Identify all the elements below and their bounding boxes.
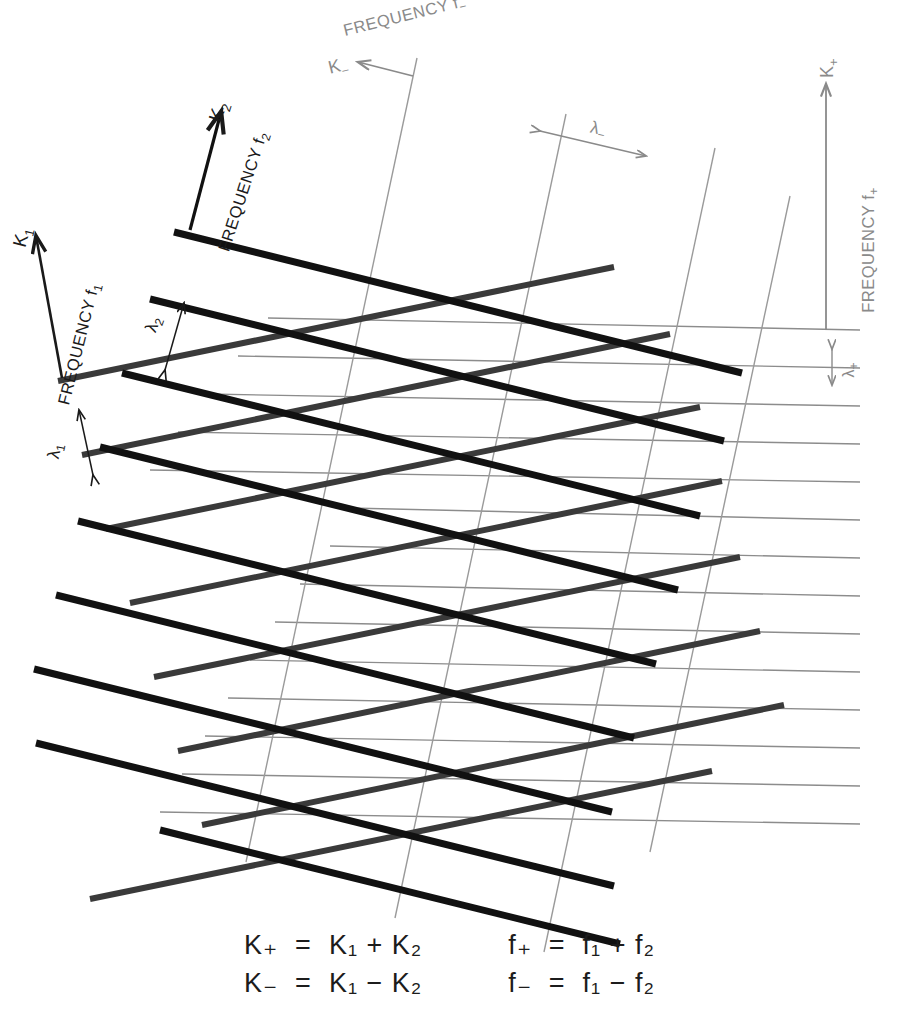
figure-background <box>0 0 899 1024</box>
figure-canvas: K1 FREQUENCY f1 K2 FREQUENCY f2 K− FREQU… <box>0 0 899 1024</box>
moire-diagram: K1 FREQUENCY f1 K2 FREQUENCY f2 K− FREQU… <box>0 0 899 1024</box>
